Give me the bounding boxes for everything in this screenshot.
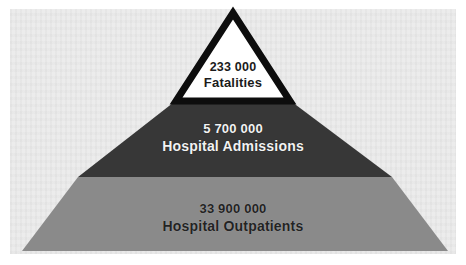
pyramid-stage bbox=[0, 0, 466, 265]
pyramid-graphic bbox=[0, 0, 466, 265]
pyramid-tier-hospital-admissions bbox=[78, 99, 392, 177]
pyramid-tier-fatalities bbox=[176, 13, 290, 101]
pyramid-figure: 233 000 Fatalities 5 700 000 Hospital Ad… bbox=[0, 0, 466, 265]
pyramid-tier-hospital-outpatients bbox=[22, 177, 448, 251]
